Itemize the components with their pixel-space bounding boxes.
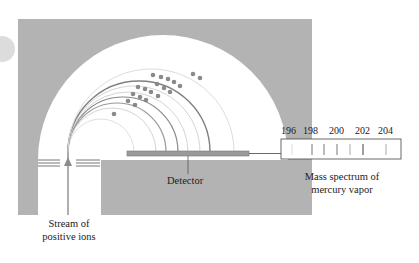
detector-label: Detector [167,174,203,187]
tick-202: 202 [355,125,370,136]
ion-entry-channel [38,159,101,215]
spectrum-label: Mass spectrum of mercury vapor [300,170,384,196]
stream-label-line2: positive ions [38,230,100,243]
stream-label: Stream of positive ions [38,217,100,243]
spectrum-box [281,139,401,159]
detector-plate [127,151,249,156]
edge-circle [0,36,15,62]
stream-label-line1: Stream of [38,217,100,230]
tick-204: 204 [378,125,393,136]
spectrum-label-line2: mercury vapor [300,183,384,196]
spectrum-label-line1: Mass spectrum of [300,170,384,183]
tick-198: 198 [303,125,318,136]
tick-196: 196 [281,125,296,136]
detector-block [101,160,312,215]
tick-200: 200 [329,125,344,136]
